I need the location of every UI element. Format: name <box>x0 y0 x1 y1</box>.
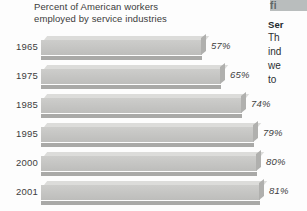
table-row: 1985 74% <box>0 91 250 120</box>
bar-1975 <box>41 65 225 89</box>
category-label-1985: 1985 <box>6 99 38 110</box>
bar-front-face <box>41 69 221 84</box>
bar-chart: Percent of American workers employed by … <box>0 0 250 211</box>
bar-end-cap <box>241 92 246 113</box>
bar-bottom-shadow <box>41 172 257 176</box>
category-label-1975: 1975 <box>6 70 38 81</box>
bar-end-cap <box>201 34 206 55</box>
chart-title: Percent of American workers employed by … <box>34 1 234 24</box>
bar-front-face <box>41 156 257 171</box>
bar-bottom-shadow <box>41 85 221 89</box>
side-text-column: fi Ser Th ind we to <box>266 0 307 211</box>
table-row: 2001 81% <box>0 178 250 207</box>
bar-bottom-shadow <box>41 114 242 118</box>
category-label-1965: 1965 <box>6 41 38 52</box>
bar-front-face <box>41 185 260 200</box>
bar-front-face <box>41 98 242 113</box>
category-label-2000: 2000 <box>6 157 38 168</box>
bar-1985 <box>41 94 246 118</box>
category-label-1995: 1995 <box>6 128 38 139</box>
table-row: 1975 65% <box>0 62 250 91</box>
side-heading: Ser <box>268 19 284 30</box>
value-label-1965: 57% <box>211 40 231 51</box>
table-row: 1965 57% <box>0 33 250 62</box>
category-label-2001: 2001 <box>6 186 38 197</box>
table-row: 1995 79% <box>0 120 250 149</box>
bar-bottom-shadow <box>41 143 254 147</box>
bar-1995 <box>41 123 258 147</box>
bar-2001 <box>41 181 264 205</box>
chart-rows: 1965 57% 1975 65% 1985 <box>0 33 250 207</box>
bar-front-face <box>41 40 202 55</box>
bar-end-cap <box>220 63 225 84</box>
bar-end-cap <box>253 121 258 142</box>
bar-front-face <box>41 127 254 142</box>
value-label-1975: 65% <box>230 69 250 80</box>
bar-bottom-shadow <box>41 56 202 60</box>
side-body-text: Th ind we to <box>268 31 281 87</box>
bar-2000 <box>41 152 261 176</box>
table-row: 2000 80% <box>0 149 250 178</box>
bar-1965 <box>41 36 206 60</box>
bar-end-cap <box>256 150 261 171</box>
section-band-label: fi <box>270 0 277 11</box>
bar-end-cap <box>259 179 264 200</box>
bar-bottom-shadow <box>41 201 260 205</box>
